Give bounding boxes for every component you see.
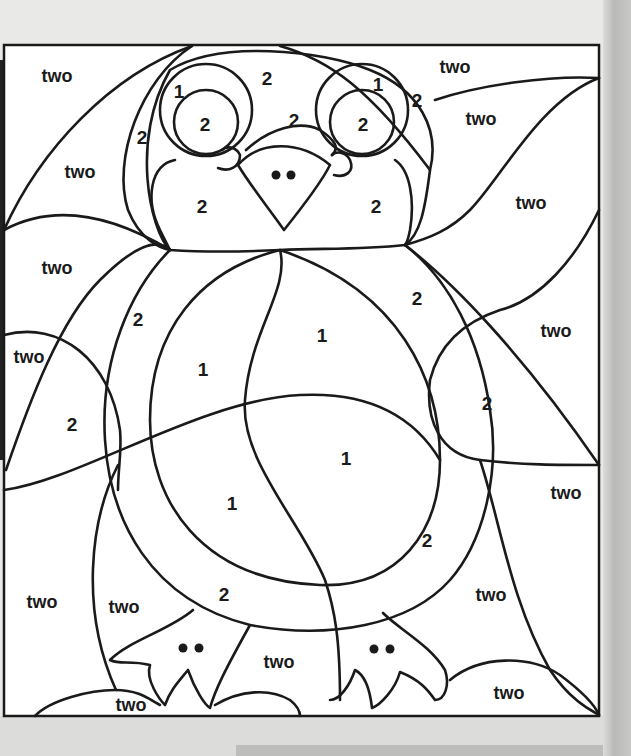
region-label: 1 (227, 494, 238, 513)
region-label: 1 (317, 326, 328, 345)
region-label: two (541, 322, 572, 340)
region-label: 2 (197, 197, 208, 216)
region-label: two (494, 684, 525, 702)
region-label: 1 (174, 82, 185, 101)
region-label: 2 (137, 128, 148, 147)
region-label: 2 (371, 197, 382, 216)
region-label: 2 (219, 585, 230, 604)
region-label: 1 (341, 449, 352, 468)
region-label: 2 (289, 111, 300, 130)
penguin-coloring-sheet (0, 0, 631, 756)
region-label: two (551, 484, 582, 502)
region-label: two (264, 653, 295, 671)
region-label: 2 (358, 115, 369, 134)
left-foot-dot-right (195, 644, 204, 653)
left-foot-dot-left (179, 644, 188, 653)
region-label: two (42, 67, 73, 85)
region-label: two (27, 593, 58, 611)
region-label: 2 (422, 531, 433, 550)
beak-dot-right (287, 171, 296, 180)
region-label: 1 (373, 75, 384, 94)
region-label: 2 (133, 310, 144, 329)
region-label: two (14, 348, 45, 366)
right-foot-dot-right (386, 645, 395, 654)
region-label: two (516, 194, 547, 212)
beak-dot-left (272, 171, 281, 180)
region-label: 2 (262, 69, 273, 88)
paper (4, 45, 599, 716)
region-label: 2 (200, 115, 211, 134)
region-label: 2 (482, 394, 493, 413)
region-label: 1 (198, 360, 209, 379)
region-label: two (440, 58, 471, 76)
region-label: two (466, 110, 497, 128)
region-label: two (116, 696, 147, 714)
region-label: 2 (412, 91, 423, 110)
region-label: two (476, 586, 507, 604)
region-label: 2 (67, 415, 78, 434)
region-label: two (109, 598, 140, 616)
region-label: two (42, 259, 73, 277)
region-label: two (65, 163, 96, 181)
right-foot-dot-left (370, 645, 379, 654)
region-label: 2 (412, 289, 423, 308)
